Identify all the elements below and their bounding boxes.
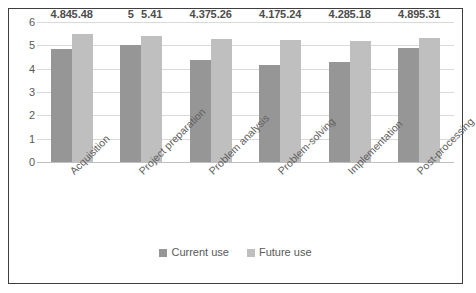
bar-slot: 4.37: [190, 22, 211, 162]
bar-value-label: 5.41: [141, 9, 162, 20]
chart-plot-wrapper: 6543210 4.845.4855.414.375.264.175.244.2…: [9, 9, 462, 283]
bar-slot: 4.28: [329, 22, 350, 162]
chart-legend: Current useFuture use: [9, 247, 462, 258]
legend-swatch-icon: [247, 249, 255, 257]
y-axis: 6543210: [15, 22, 35, 162]
bar-slot: 5.18: [350, 22, 371, 162]
axis-baseline: [37, 162, 454, 163]
bar-slot: 5.31: [419, 22, 440, 162]
y-axis-tick-label: 3: [15, 87, 35, 98]
bar-future[interactable]: 5.18: [350, 41, 371, 162]
chart-container: 6543210 4.845.4855.414.375.264.175.244.2…: [8, 8, 463, 284]
bar-value-label: 5.24: [280, 9, 301, 20]
y-axis-tick-label: 0: [15, 157, 35, 168]
legend-label: Future use: [259, 247, 312, 258]
legend-item-current[interactable]: Current use: [159, 247, 228, 258]
y-axis-tick-label: 5: [15, 40, 35, 51]
bar-slot: 5.24: [280, 22, 301, 162]
bar-value-label: 4.37: [190, 9, 211, 20]
bar-value-label: 5.18: [350, 9, 371, 20]
y-axis-tick-label: 6: [15, 17, 35, 28]
bar-value-label: 4.89: [398, 9, 419, 20]
bar-current[interactable]: 5: [120, 45, 141, 162]
x-axis-category: Problem analysis: [176, 165, 246, 255]
bar-slot: 5.48: [72, 22, 93, 162]
legend-label: Current use: [171, 247, 228, 258]
bar-current[interactable]: 4.84: [51, 49, 72, 162]
bar-value-label: 5.48: [72, 9, 93, 20]
bar-value-label: 5.31: [419, 9, 440, 20]
bar-future[interactable]: 5.31: [419, 38, 440, 162]
bar-value-label: 4.17: [259, 9, 280, 20]
legend-item-future[interactable]: Future use: [247, 247, 312, 258]
legend-swatch-icon: [159, 249, 167, 257]
bar-future[interactable]: 5.26: [211, 39, 232, 162]
bar-value-label: 4.84: [51, 9, 72, 20]
x-axis-category: Implementation: [315, 165, 385, 255]
bar-slot: 5: [120, 22, 141, 162]
bar-slot: 4.84: [51, 22, 72, 162]
y-axis-tick-label: 1: [15, 133, 35, 144]
bar-value-label: 5: [128, 9, 134, 20]
bar-current[interactable]: 4.89: [398, 48, 419, 162]
bar-slot: 4.17: [259, 22, 280, 162]
x-axis-category: Post-processing: [385, 165, 455, 255]
bar-slot: 5.41: [141, 22, 162, 162]
bar-slot: 4.89: [398, 22, 419, 162]
bar-slot: 5.26: [211, 22, 232, 162]
x-axis: AcquisitionProject preparationProblem an…: [37, 165, 454, 255]
x-axis-category: Acquisition: [37, 165, 107, 255]
y-axis-tick-label: 4: [15, 63, 35, 74]
bar-future[interactable]: 5.48: [72, 34, 93, 162]
bar-current[interactable]: 4.28: [329, 62, 350, 162]
bar-value-label: 4.28: [329, 9, 350, 20]
bar-future[interactable]: 5.41: [141, 36, 162, 162]
x-axis-category: Project preparation: [107, 165, 177, 255]
bar-value-label: 5.26: [211, 9, 232, 20]
y-axis-tick-label: 2: [15, 110, 35, 121]
x-axis-category: Problem-solving: [246, 165, 316, 255]
